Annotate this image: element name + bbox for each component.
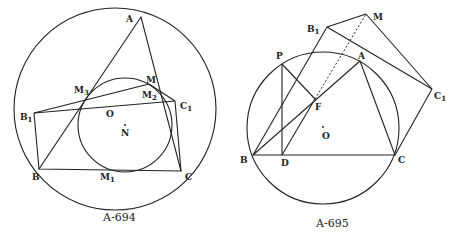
point-n xyxy=(124,124,126,126)
figure-a695: P A B C D F O M B1 C1 A-695 xyxy=(240,12,446,230)
segment-b-b1 xyxy=(34,113,39,169)
geometry-figures: A B C B1 C1 M M3 M2 M1 O N A-694 xyxy=(0,0,455,236)
label-n: N xyxy=(121,128,129,138)
label-a: A xyxy=(125,14,134,24)
label-c1: C1 xyxy=(434,91,446,103)
label-b: B xyxy=(240,155,248,165)
label-d: D xyxy=(281,158,289,168)
point-o xyxy=(322,126,324,128)
label-b: B xyxy=(32,172,40,182)
label-m1: M1 xyxy=(100,172,115,184)
label-m2: M2 xyxy=(142,90,157,102)
segment-b1-c1 xyxy=(327,27,432,89)
segment-m-c1 xyxy=(366,14,432,89)
label-a: A xyxy=(357,51,366,61)
segment-b1-c1 xyxy=(34,101,175,113)
segment-b1-m xyxy=(327,14,366,27)
label-p: P xyxy=(276,51,283,61)
label-b1: B1 xyxy=(20,112,33,124)
figure-a694: A B C B1 C1 M M3 M2 M1 O N A-694 xyxy=(14,8,216,224)
segment-p-f xyxy=(282,64,315,99)
segment-c-c1 xyxy=(395,89,432,155)
label-c: C xyxy=(185,172,192,182)
label-o: O xyxy=(322,131,330,141)
caption-a694: A-694 xyxy=(102,211,136,224)
label-m3: M3 xyxy=(74,85,89,97)
caption-a695: A-695 xyxy=(315,217,349,230)
label-b1: B1 xyxy=(307,24,320,36)
label-c: C xyxy=(398,155,405,165)
label-m: M xyxy=(146,75,156,85)
segment-d-f xyxy=(282,99,315,155)
label-m: M xyxy=(373,12,383,22)
segment-b-b1 xyxy=(253,27,327,155)
label-o: O xyxy=(106,109,114,119)
label-f: F xyxy=(315,102,322,112)
label-c1: C1 xyxy=(180,101,192,113)
